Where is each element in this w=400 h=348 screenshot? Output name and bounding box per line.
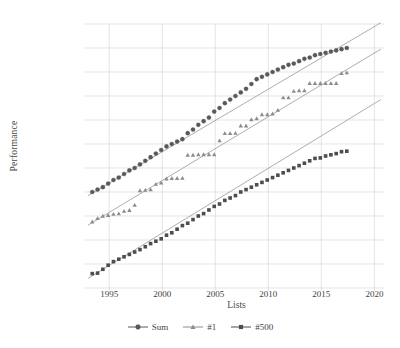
data-points	[90, 46, 349, 276]
chart-figure: Performance Lists 10 EFlop/s1 EFlop/s100…	[0, 0, 400, 348]
legend-marker-circle-icon	[127, 322, 149, 332]
legend-item-n1[interactable]: #1	[182, 322, 216, 332]
plot-area	[0, 0, 400, 348]
legend-label: Sum	[152, 323, 169, 332]
legend-marker-triangle-icon	[182, 322, 204, 332]
legend-item-Sum[interactable]: Sum	[127, 322, 169, 332]
legend-label: #1	[207, 323, 216, 332]
legend-label: #500	[255, 323, 273, 332]
legend-marker-square-icon	[230, 322, 252, 332]
gridlines	[84, 24, 385, 291]
chart-legend: Sum#1#500	[0, 322, 400, 332]
legend-item-n500[interactable]: #500	[230, 322, 273, 332]
